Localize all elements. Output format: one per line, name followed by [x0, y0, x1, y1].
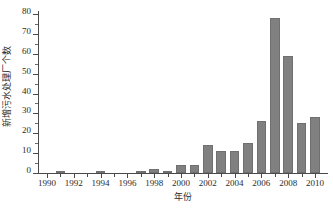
y-axis-tick: 0 — [33, 173, 38, 174]
y-axis-minor-tick — [35, 64, 38, 65]
bar — [203, 145, 213, 173]
y-axis-tick-label: 30 — [22, 106, 31, 115]
bar — [310, 117, 320, 173]
x-axis-line — [38, 173, 328, 174]
x-axis-tick-label: 1994 — [92, 179, 110, 188]
y-axis-title-text: 新增污水处理厂个数 — [0, 46, 13, 127]
bar — [176, 165, 186, 173]
x-axis-tick-label: 1998 — [145, 179, 163, 188]
x-axis-title: 年份 — [39, 190, 327, 203]
y-axis-title: 新增污水处理厂个数 — [0, 0, 13, 173]
x-axis-tick-label: 1992 — [65, 179, 83, 188]
x-axis-minor-tick — [87, 174, 88, 177]
x-axis-tick-label: 2010 — [306, 179, 324, 188]
y-axis-minor-tick — [35, 123, 38, 124]
y-axis-tick: 30 — [33, 113, 38, 114]
bar — [230, 151, 240, 173]
bar — [190, 165, 200, 173]
x-axis-minor-tick — [141, 174, 142, 177]
x-axis-minor-tick — [60, 174, 61, 177]
bar-chart: 新增污水处理厂个数 01020304050607080 199019921994… — [0, 0, 333, 210]
plot-area — [39, 14, 327, 173]
bar — [96, 171, 106, 173]
x-axis-tick-label: 2008 — [279, 179, 297, 188]
y-axis-tick: 60 — [33, 54, 38, 55]
bar — [297, 123, 307, 173]
y-axis-tick-label: 50 — [22, 67, 31, 76]
x-axis-minor-tick — [194, 174, 195, 177]
y-axis-tick: 80 — [33, 14, 38, 15]
bar — [56, 171, 66, 173]
bar — [257, 121, 267, 173]
y-axis-tick-label: 0 — [27, 166, 32, 175]
y-axis-minor-tick — [35, 44, 38, 45]
x-axis-minor-tick — [114, 174, 115, 177]
y-axis-tick-label: 60 — [22, 47, 31, 56]
x-axis-tick-label: 2002 — [199, 179, 217, 188]
y-axis-tick-label: 40 — [22, 87, 31, 96]
x-axis-title-text: 年份 — [174, 192, 192, 202]
y-axis-minor-tick — [35, 24, 38, 25]
bar — [216, 151, 226, 173]
x-axis-tick-label: 2004 — [226, 179, 244, 188]
y-axis-tick: 10 — [33, 153, 38, 154]
y-axis-tick: 20 — [33, 133, 38, 134]
y-axis-tick-label: 10 — [22, 146, 31, 155]
y-axis-tick-label: 80 — [22, 7, 31, 16]
y-axis-minor-tick — [35, 143, 38, 144]
bar — [163, 171, 173, 173]
x-axis-tick-label: 2000 — [172, 179, 190, 188]
x-axis-minor-tick — [221, 174, 222, 177]
bar — [243, 143, 253, 173]
x-axis-tick-label: 1996 — [118, 179, 136, 188]
x-axis-minor-tick — [248, 174, 249, 177]
y-axis-tick: 70 — [33, 34, 38, 35]
y-axis-tick: 50 — [33, 74, 38, 75]
bar — [149, 169, 159, 173]
x-axis-tick-label: 1990 — [38, 179, 56, 188]
bar — [270, 18, 280, 173]
bar — [283, 56, 293, 173]
bar — [136, 171, 146, 173]
y-axis-minor-tick — [35, 163, 38, 164]
x-axis-minor-tick — [275, 174, 276, 177]
x-axis-tick-label: 2006 — [252, 179, 270, 188]
x-axis-minor-tick — [168, 174, 169, 177]
x-axis-minor-tick — [302, 174, 303, 177]
y-axis-tick-label: 20 — [22, 126, 31, 135]
y-axis-tick-label: 70 — [22, 27, 31, 36]
y-axis-tick: 40 — [33, 94, 38, 95]
y-axis-minor-tick — [35, 84, 38, 85]
y-axis-minor-tick — [35, 103, 38, 104]
